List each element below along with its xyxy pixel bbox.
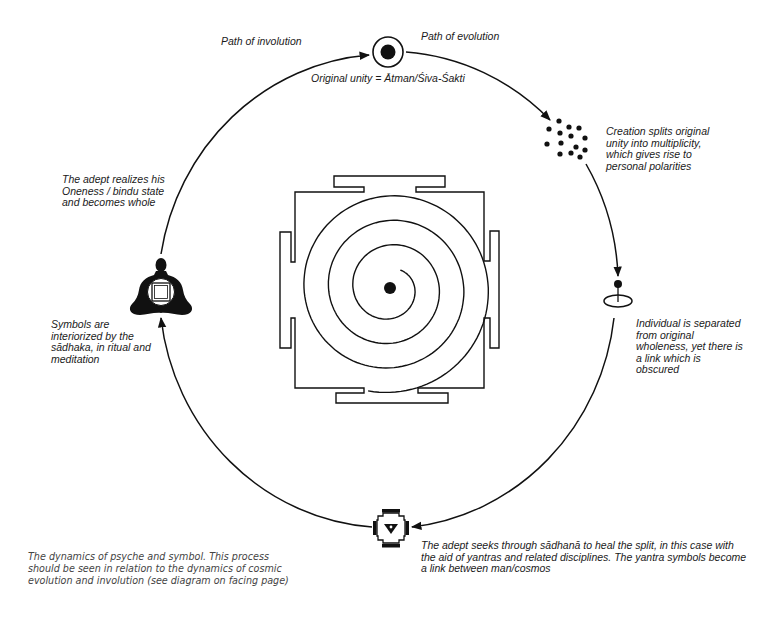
figure-caption: The dynamics of psyche and symbol. This … xyxy=(28,551,289,587)
small-yantra-icon xyxy=(373,509,409,548)
label-symbols-interiorized: Symbols are interiorized by the sādhaka,… xyxy=(51,319,151,365)
arc-to-meditator xyxy=(161,318,372,527)
label-adept-realizes: The adept realizes his Oneness / bindu s… xyxy=(62,174,165,209)
arc-to-individual xyxy=(586,164,618,276)
spiral-yantra-icon xyxy=(280,176,499,403)
diagram-stage: Path of involution Path of evolution Ori… xyxy=(0,0,779,623)
spiral-line xyxy=(304,196,488,393)
bindu-circle-icon xyxy=(373,37,403,67)
arc-to-yantra xyxy=(412,318,614,527)
label-path-evolution: Path of evolution xyxy=(421,31,499,43)
arc-evolution xyxy=(406,52,550,120)
label-original-unity: Original unity = Ātman/Śiva-Śakti xyxy=(311,73,465,85)
label-creation: Creation splits original unity into mult… xyxy=(606,126,709,172)
individual-ellipse-icon xyxy=(604,280,632,307)
bindu-center xyxy=(384,282,396,294)
cycle-diagram xyxy=(0,0,779,623)
label-path-involution: Path of involution xyxy=(221,36,302,48)
meditating-figure-icon xyxy=(130,258,192,315)
label-individual: Individual is separated from original wh… xyxy=(636,318,743,376)
multiplicity-dots-icon xyxy=(544,118,587,159)
arc-involution xyxy=(161,55,369,254)
label-adept-seeks: The adept seeks through sādhanā to heal … xyxy=(421,540,746,575)
